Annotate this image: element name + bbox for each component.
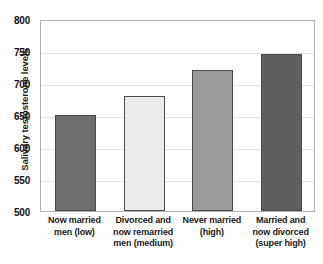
x-tick-label-line: Divorced and [109, 215, 178, 227]
bar [55, 115, 96, 211]
x-tick-label-line: Now married [40, 215, 109, 227]
y-tick-label: 700 [0, 79, 30, 90]
bar [124, 96, 165, 211]
x-tick-label-line: Married and [246, 215, 315, 227]
x-tick-label: Divorced andnow remarriedmen (medium) [109, 215, 178, 250]
x-axis-tick-labels: Now marriedmen (low)Divorced andnow rema… [40, 215, 315, 264]
x-tick-label-line: (high) [178, 227, 247, 239]
bar [261, 54, 302, 211]
bar-chart: Salivary testosterone levels 50055060065… [0, 0, 323, 264]
bar [192, 70, 233, 211]
y-tick-label: 650 [0, 111, 30, 122]
x-tick-label: Married andnow divorced(super high) [246, 215, 315, 250]
x-tick-label: Now marriedmen (low) [40, 215, 109, 238]
x-tick-label-line: now remarried [109, 227, 178, 239]
y-tick-label: 500 [0, 207, 30, 218]
x-tick-label: Never married(high) [178, 215, 247, 238]
x-tick-label-line: men (low) [40, 227, 109, 239]
y-tick-label: 800 [0, 15, 30, 26]
x-tick-label-line: (super high) [246, 238, 315, 250]
plot-area [40, 20, 315, 212]
y-tick-label: 550 [0, 175, 30, 186]
x-tick-label-line: now divorced [246, 227, 315, 239]
y-tick-label: 600 [0, 143, 30, 154]
y-tick-label: 750 [0, 47, 30, 58]
x-tick-label-line: Never married [178, 215, 247, 227]
x-tick-label-line: men (medium) [109, 238, 178, 250]
